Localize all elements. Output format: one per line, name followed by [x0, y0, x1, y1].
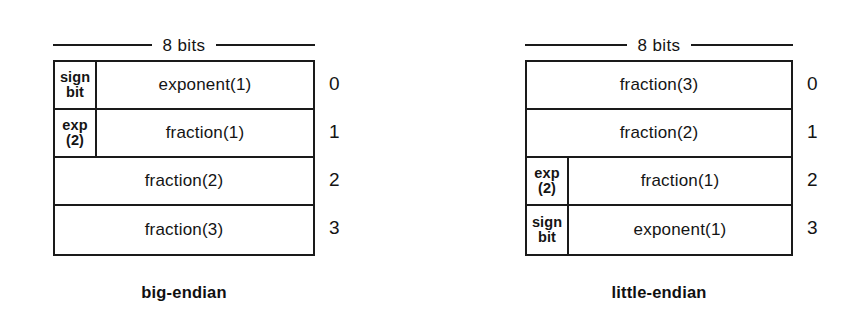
field-line-2: bit [538, 230, 556, 245]
byte-index: 2 [329, 156, 340, 204]
byte-index: 1 [807, 108, 818, 156]
byte-index: 0 [329, 60, 340, 108]
table-row: sign bit exponent(1) [55, 62, 313, 110]
table-row: fraction(2) [55, 158, 313, 206]
field-fraction-3: fraction(3) [527, 62, 791, 108]
field-fraction-2: fraction(2) [55, 158, 313, 204]
byte-index: 3 [329, 204, 340, 252]
field-fraction-3: fraction(3) [55, 206, 313, 254]
byte-order-figure: 8 bits sign bit exponent(1) exp (2) [0, 0, 857, 328]
field-line-2: bit [66, 85, 84, 100]
byte-index: 1 [329, 108, 340, 156]
table-row: fraction(3) [55, 206, 313, 254]
byte-table-big-endian: sign bit exponent(1) exp (2) fraction(1)… [53, 60, 315, 256]
field-exponent-1: exponent(1) [569, 206, 791, 254]
field-exponent-1: exponent(1) [97, 62, 313, 108]
byte-index: 2 [807, 156, 818, 204]
field-exp-2: exp (2) [527, 158, 569, 204]
width-caption-big-endian: 8 bits [53, 34, 315, 56]
field-line-1: sign [60, 70, 90, 85]
width-caption-little-endian: 8 bits [525, 34, 793, 56]
byte-index-column-little-endian: 0 1 2 3 [793, 60, 818, 256]
field-line-1: exp [534, 166, 559, 181]
byte-table-wrap-little-endian: fraction(3) fraction(2) exp (2) fraction… [525, 60, 793, 256]
field-line-2: (2) [66, 133, 84, 148]
caption-rule-right-icon [216, 44, 315, 46]
field-sign-bit: sign bit [55, 62, 97, 108]
byte-table-wrap-big-endian: sign bit exponent(1) exp (2) fraction(1)… [53, 60, 315, 256]
width-caption-label: 8 bits [637, 37, 680, 54]
panel-label-little-endian: little-endian [525, 283, 793, 302]
caption-rule-left-icon [525, 44, 627, 46]
panel-little-endian: 8 bits fraction(3) fraction(2) exp (2) f… [525, 34, 793, 302]
byte-index-column-big-endian: 0 1 2 3 [315, 60, 340, 256]
field-exp-2: exp (2) [55, 110, 97, 156]
field-fraction-1: fraction(1) [569, 158, 791, 204]
panel-label-big-endian: big-endian [53, 283, 315, 302]
field-line-1: exp [62, 118, 87, 133]
table-row: fraction(3) [527, 62, 791, 110]
panel-big-endian: 8 bits sign bit exponent(1) exp (2) [53, 34, 315, 302]
caption-rule-left-icon [53, 44, 152, 46]
width-caption-label: 8 bits [162, 37, 205, 54]
caption-rule-right-icon [691, 44, 793, 46]
byte-index: 0 [807, 60, 818, 108]
field-line-1: sign [532, 215, 562, 230]
table-row: exp (2) fraction(1) [55, 110, 313, 158]
byte-table-little-endian: fraction(3) fraction(2) exp (2) fraction… [525, 60, 793, 256]
table-row: exp (2) fraction(1) [527, 158, 791, 206]
table-row: sign bit exponent(1) [527, 206, 791, 254]
field-fraction-2: fraction(2) [527, 110, 791, 156]
byte-index: 3 [807, 204, 818, 252]
field-line-2: (2) [538, 181, 556, 196]
table-row: fraction(2) [527, 110, 791, 158]
field-sign-bit: sign bit [527, 206, 569, 254]
field-fraction-1: fraction(1) [97, 110, 313, 156]
